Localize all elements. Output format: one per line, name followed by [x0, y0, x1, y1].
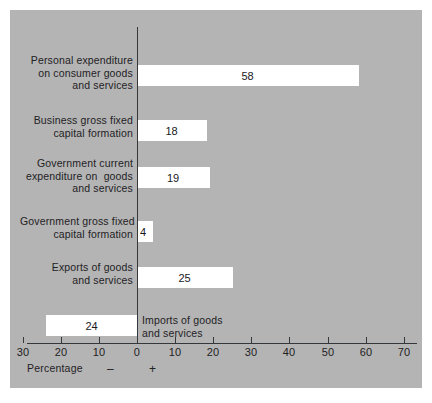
x-axis-line: [27, 343, 417, 344]
x-axis-tick: [328, 337, 329, 343]
x-axis-tick: [23, 337, 24, 343]
x-axis-tick: [137, 337, 138, 343]
bar-value-label: 4: [140, 227, 146, 238]
chart-screenshot: 302010010203040506070 58Personal expendi…: [0, 0, 432, 403]
bar-value-label: 24: [46, 321, 137, 332]
bar-value-label: 18: [137, 126, 206, 137]
bar-category-label: Government gross fixed capital formation: [20, 215, 133, 240]
x-axis-tick-label: 40: [274, 346, 304, 358]
bar-category-label: Exports of goods and services: [20, 261, 133, 286]
x-axis-tick-label: 0: [122, 346, 152, 358]
x-axis-tick-label: 20: [198, 346, 228, 358]
x-axis-tick-label: 50: [313, 346, 343, 358]
x-axis-tick-label: 60: [351, 346, 381, 358]
x-axis-tick-label: 30: [8, 346, 38, 358]
bar-category-label: Personal expenditure on consumer goods a…: [20, 54, 133, 92]
x-axis-tick: [404, 337, 405, 343]
x-axis-tick: [366, 337, 367, 343]
x-axis-tick: [61, 337, 62, 343]
x-axis-tick-label: 10: [84, 346, 114, 358]
bar-category-label: Business gross fixed capital formation: [20, 114, 133, 139]
x-axis-tick-label: 10: [160, 346, 190, 358]
x-axis-tick-label: 20: [46, 346, 76, 358]
positive-sign-marker: +: [149, 362, 156, 376]
bar-value-label: 19: [137, 173, 209, 184]
x-axis-tick-label: 70: [389, 346, 419, 358]
x-axis-caption: Percentage: [27, 362, 83, 374]
x-axis-tick-label: 30: [236, 346, 266, 358]
x-axis-tick: [99, 337, 100, 343]
chart-panel: 302010010203040506070 58Personal expendi…: [10, 10, 422, 388]
negative-sign-marker: –: [107, 362, 114, 376]
bar-category-label: Government current expenditure on goods …: [20, 157, 133, 195]
bar-value-label: 25: [137, 273, 232, 284]
bar-value-label: 58: [137, 71, 358, 82]
bar-category-label: Imports of goods and services: [142, 314, 292, 339]
